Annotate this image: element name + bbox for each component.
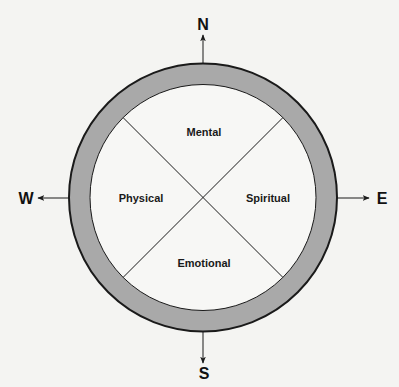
direction-label-west: W: [18, 190, 34, 207]
quadrant-label-mental: Mental: [187, 126, 222, 138]
quadrant-label-physical: Physical: [119, 192, 164, 204]
direction-label-south: S: [199, 365, 210, 382]
quadrant-label-emotional: Emotional: [177, 257, 230, 269]
direction-label-north: N: [197, 16, 209, 33]
medicine-wheel-diagram: Mental Physical Spiritual Emotional N S …: [0, 0, 399, 387]
quadrant-label-spiritual: Spiritual: [246, 192, 290, 204]
direction-label-east: E: [377, 190, 388, 207]
